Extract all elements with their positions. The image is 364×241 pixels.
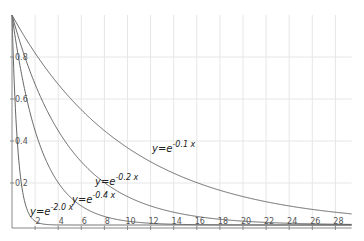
y-tick-label: 0.8 xyxy=(15,53,28,62)
y-tick-label: 0.4 xyxy=(15,137,28,146)
curve-label: y=e-0.2 x xyxy=(94,173,139,187)
x-tick-label: 6 xyxy=(82,217,87,226)
x-tick-label: 24 xyxy=(287,217,297,226)
curve-line xyxy=(12,15,352,225)
curve-labels: y=e-0.1 xy=e-0.2 xy=e-0.4 xy=e-2.0 x xyxy=(29,140,196,217)
y-axis-ticks: 0.20.40.60.8 xyxy=(10,53,28,188)
y-tick-label: 0.2 xyxy=(15,179,28,188)
axes xyxy=(12,15,352,228)
x-tick-label: 8 xyxy=(105,217,110,226)
curve-label: y=e-2.0 x xyxy=(29,203,74,217)
curve-label: y=e-0.4 x xyxy=(71,191,116,205)
x-tick-label: 28 xyxy=(333,217,343,226)
x-tick-label: 20 xyxy=(241,217,251,226)
x-tick-label: 12 xyxy=(149,217,159,226)
curve-line xyxy=(12,15,352,225)
x-tick-label: 22 xyxy=(264,217,274,226)
x-tick-label: 14 xyxy=(172,217,182,226)
x-tick-label: 26 xyxy=(310,217,320,226)
x-tick-label: 10 xyxy=(125,217,135,226)
curve-line xyxy=(12,15,352,224)
x-tick-label: 16 xyxy=(195,217,205,226)
y-tick-label: 0.6 xyxy=(15,95,28,104)
curve-line xyxy=(12,15,352,214)
x-tick-label: 18 xyxy=(218,217,228,226)
exponential-decay-chart: 246810121416182022242628 0.20.40.60.8 y=… xyxy=(0,0,364,241)
curves xyxy=(12,15,352,225)
x-tick-label: 4 xyxy=(59,217,64,226)
grid-lines xyxy=(12,15,352,228)
x-tick-label: 2 xyxy=(36,217,41,226)
